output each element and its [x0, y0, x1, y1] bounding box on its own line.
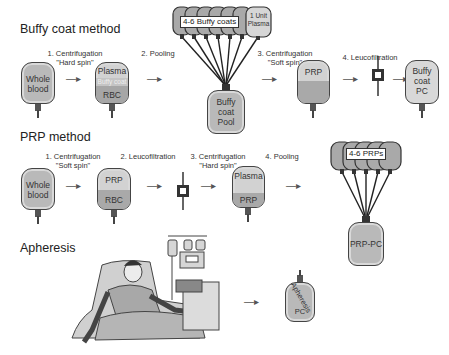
- apheresis-illustration: [0, 0, 449, 355]
- bag-port: [297, 275, 303, 282]
- bag-tube: [299, 270, 301, 276]
- arrow-icon: —▸: [244, 296, 259, 307]
- apheresis-pc-bag: Apheresis PC: [285, 282, 315, 322]
